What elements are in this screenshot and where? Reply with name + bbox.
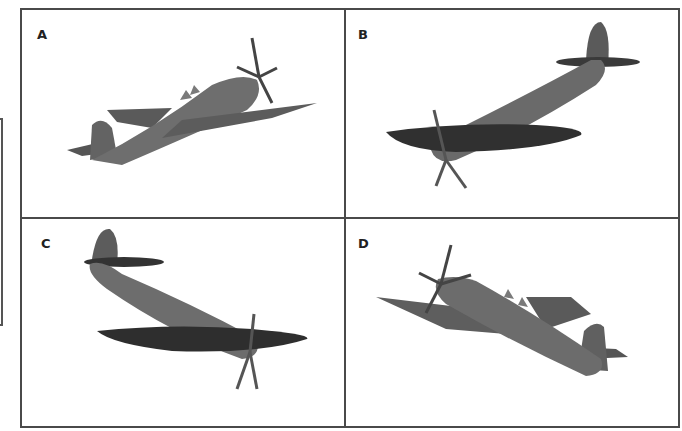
aircraft-a-image	[22, 10, 344, 217]
side-bracket	[0, 118, 3, 326]
panel-d: D	[346, 219, 682, 428]
figure-grid: A B	[20, 8, 680, 428]
panel-a: A	[22, 10, 344, 217]
aircraft-d-image	[346, 219, 682, 428]
aircraft-c-image	[22, 219, 344, 428]
aircraft-b-image	[346, 10, 682, 217]
panel-c: C	[22, 219, 344, 428]
panel-b: B	[346, 10, 682, 217]
